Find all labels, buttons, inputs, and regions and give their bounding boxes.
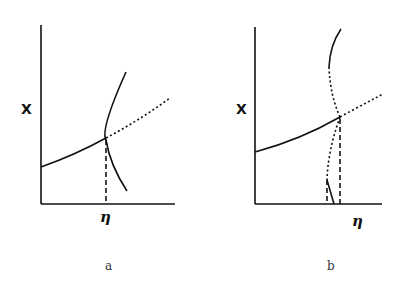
s-curve-mid-dotted-b <box>329 67 340 117</box>
panel-a <box>41 25 175 204</box>
curve-solid-b <box>255 117 340 152</box>
curve-solid-a <box>41 138 106 167</box>
curve-dotted-a <box>106 98 170 138</box>
x-axis-label-a: η <box>100 208 111 226</box>
s-curve-top-solid-b <box>329 29 341 67</box>
y-axis-label-a: X <box>21 101 32 117</box>
s-curve-bottom-solid-b <box>327 180 334 204</box>
s-curve-low-dotted-b <box>327 117 340 180</box>
caption-b: b <box>327 259 335 273</box>
diagram-canvas <box>0 0 403 301</box>
caption-a: a <box>105 259 112 273</box>
y-axis-label-b: X <box>236 101 247 117</box>
arc-a <box>105 72 127 191</box>
curve-dotted-b <box>340 94 383 117</box>
x-axis-label-b: η <box>352 212 363 230</box>
panel-b <box>255 27 383 204</box>
